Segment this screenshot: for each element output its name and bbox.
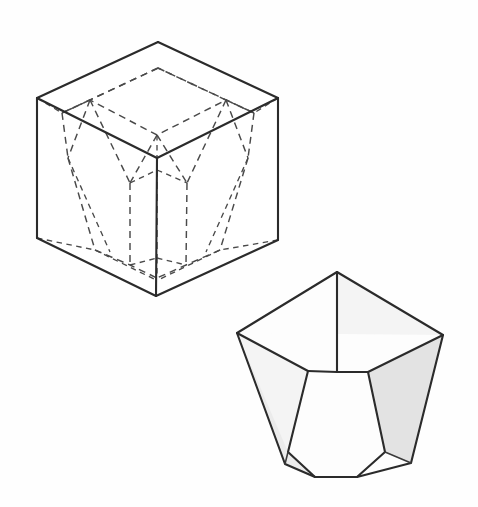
reference-cube bbox=[37, 42, 278, 296]
cube-edge-vertical-front bbox=[156, 158, 157, 296]
edge-junctionleft-to-center bbox=[308, 371, 337, 372]
shaded-trapezohedron bbox=[237, 272, 443, 477]
crystal-form-diagram bbox=[0, 0, 478, 507]
figure-root bbox=[0, 0, 478, 507]
